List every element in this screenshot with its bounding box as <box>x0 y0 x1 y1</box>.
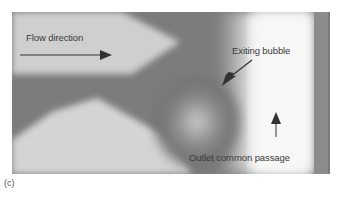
junction-photo: Flow direction Exiting bubble Outlet com… <box>12 12 330 174</box>
panel-label: (c) <box>4 178 15 188</box>
flow-direction-label: Flow direction <box>26 32 83 43</box>
outlet-passage-label: Outlet common passage <box>189 152 290 163</box>
exiting-bubble-label: Exiting bubble <box>232 45 290 56</box>
